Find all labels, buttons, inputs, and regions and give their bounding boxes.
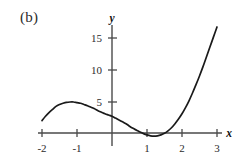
figure-panel: (b) -2 -1 1 2 3 15 10 5 y x: [0, 0, 241, 163]
chart-plot-area: -2 -1 1 2 3 15 10 5 y x: [0, 0, 241, 163]
x-tick-label: 1: [144, 142, 150, 154]
x-tick-label: -2: [37, 142, 46, 154]
x-tick-label: 2: [179, 142, 185, 154]
x-tick-label: 3: [214, 142, 220, 154]
y-tick-label: 15: [91, 32, 103, 44]
y-tick-label: 10: [91, 64, 103, 76]
curve-path: [42, 27, 217, 136]
y-tick-label: 5: [97, 96, 103, 108]
y-axis-label: y: [107, 12, 115, 25]
x-axis-label: x: [225, 127, 232, 139]
x-tick-label: -1: [72, 142, 81, 154]
